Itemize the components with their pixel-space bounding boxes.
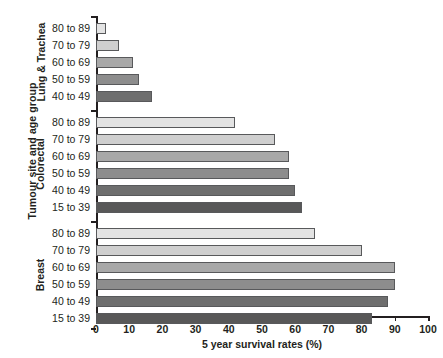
y-axis-category-label: 15 to 39 bbox=[52, 313, 90, 324]
y-axis-category-label: 60 to 69 bbox=[52, 151, 90, 162]
bar[interactable] bbox=[96, 202, 302, 214]
bar[interactable] bbox=[96, 151, 289, 163]
y-axis-group-tick bbox=[91, 16, 96, 18]
y-axis-category-label: 70 to 79 bbox=[52, 40, 90, 51]
y-axis-category-label: 60 to 69 bbox=[52, 262, 90, 273]
x-axis-tick bbox=[428, 316, 430, 321]
y-axis-category-label: 50 to 59 bbox=[52, 168, 90, 179]
y-axis-category-label: 70 to 79 bbox=[52, 134, 90, 145]
y-axis-group-tick bbox=[91, 328, 96, 330]
bar[interactable] bbox=[96, 134, 275, 146]
figure: Tumour site and age group 01020304050607… bbox=[0, 0, 443, 358]
bar[interactable] bbox=[96, 40, 119, 52]
group-label: Lung & Trachea bbox=[34, 19, 46, 104]
bar[interactable] bbox=[96, 57, 133, 69]
bar[interactable] bbox=[96, 245, 362, 257]
y-axis-category-label: 80 to 89 bbox=[52, 117, 90, 128]
bar[interactable] bbox=[96, 185, 295, 197]
y-axis-category-label: 40 to 49 bbox=[52, 296, 90, 307]
y-axis-category-label: 15 to 39 bbox=[52, 202, 90, 213]
bar[interactable] bbox=[96, 228, 315, 240]
bar[interactable] bbox=[96, 296, 388, 308]
figure-caption bbox=[30, 348, 420, 357]
bar[interactable] bbox=[96, 262, 395, 274]
y-axis-category-label: 80 to 89 bbox=[52, 228, 90, 239]
bar[interactable] bbox=[96, 168, 289, 180]
y-axis-group-tick bbox=[91, 221, 96, 223]
bar[interactable] bbox=[96, 23, 106, 35]
x-axis-tick bbox=[395, 316, 397, 321]
y-axis-category-label: 70 to 79 bbox=[52, 245, 90, 256]
y-axis-category-label: 80 to 89 bbox=[52, 23, 90, 34]
y-axis-category-label: 50 to 59 bbox=[52, 74, 90, 85]
bar[interactable] bbox=[96, 91, 152, 103]
bar[interactable] bbox=[96, 117, 235, 129]
x-axis-tick-label: 100 bbox=[408, 323, 443, 335]
bar[interactable] bbox=[96, 279, 395, 291]
group-label: Breast bbox=[34, 224, 46, 326]
group-label: Colorectal bbox=[34, 113, 46, 215]
y-axis-category-label: 60 to 69 bbox=[52, 57, 90, 68]
y-axis-category-label: 40 to 49 bbox=[52, 91, 90, 102]
y-axis-group-tick bbox=[91, 110, 96, 112]
y-axis-category-label: 40 to 49 bbox=[52, 185, 90, 196]
bar[interactable] bbox=[96, 74, 139, 86]
bar[interactable] bbox=[96, 313, 372, 325]
y-axis-category-label: 50 to 59 bbox=[52, 279, 90, 290]
plot-area: 0102030405060708090100 80 to 8970 to 796… bbox=[96, 16, 428, 316]
